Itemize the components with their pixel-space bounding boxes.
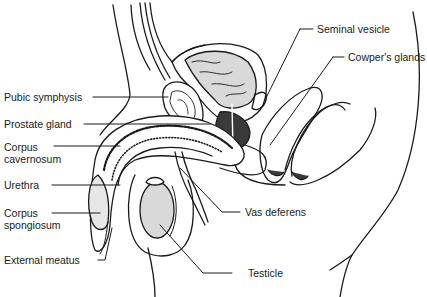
label-cowpers-glands: Cowper's glands (348, 51, 425, 63)
label-corpus-cavernosum-line1: Corpus (4, 141, 38, 153)
label-vas-deferens: Vas deferens (245, 206, 306, 218)
label-testicle: Testicle (248, 267, 283, 279)
anatomy-drawing (0, 0, 427, 297)
label-corpus-spongiosum-line2: spongiosum (4, 219, 61, 231)
label-seminal-vesicle: Seminal vesicle (317, 23, 390, 35)
label-urethra: Urethra (4, 179, 39, 191)
scrotum-testicle (128, 175, 193, 297)
label-external-meatus: External meatus (4, 254, 80, 266)
pelvic-floor (235, 87, 376, 185)
label-pubic-symphysis: Pubic symphysis (4, 91, 82, 103)
anatomy-diagram: Seminal vesicle Cowper's glands Pubic sy… (0, 0, 427, 297)
label-prostate-gland: Prostate gland (4, 118, 72, 130)
label-corpus-spongiosum-line1: Corpus (4, 207, 38, 219)
label-corpus-cavernosum-line2: cavernosum (4, 153, 61, 165)
